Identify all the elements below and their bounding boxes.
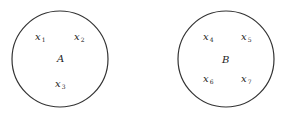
set-b: Bx4x5x6x7 — [178, 11, 274, 107]
set-element: x7 — [241, 73, 252, 85]
set-element: x4 — [203, 31, 214, 43]
set-label: B — [221, 54, 229, 65]
set-element: x3 — [55, 78, 66, 90]
set-diagram: Ax1x2x3Bx4x5x6x7 — [0, 0, 290, 115]
set-element: x1 — [35, 31, 45, 43]
set-element: x2 — [74, 31, 85, 43]
set-element: x6 — [203, 73, 214, 85]
set-element: x5 — [241, 31, 252, 43]
set-a: Ax1x2x3 — [12, 11, 108, 107]
set-label: A — [56, 53, 64, 64]
